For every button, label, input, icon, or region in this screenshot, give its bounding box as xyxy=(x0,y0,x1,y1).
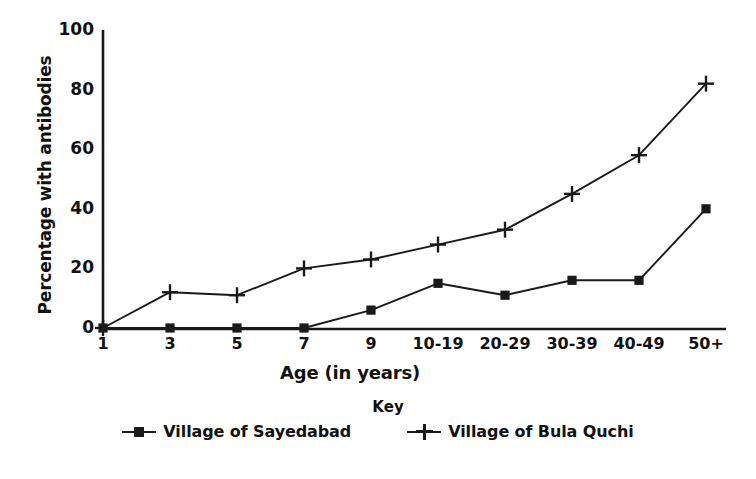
chart-legend: Key Village of SayedabadVillage of Bula … xyxy=(0,398,756,458)
x-axis-title: Age (in years) xyxy=(0,362,700,383)
data-point-marker xyxy=(564,186,580,202)
data-point-marker xyxy=(497,222,513,238)
data-point-marker xyxy=(430,237,446,253)
x-tick-label: 10-19 xyxy=(412,336,463,352)
plus-marker-icon xyxy=(407,423,441,441)
legend-label: Village of Bula Quchi xyxy=(448,422,633,441)
x-axis-tick-labels: 1357910-1920-2930-3940-4950+ xyxy=(0,336,756,360)
legend-entry: Village of Sayedabad xyxy=(122,422,351,441)
data-point-marker xyxy=(162,284,178,300)
series-1 xyxy=(98,204,710,332)
antibody-prevalence-line-chart: Percentage with antibodies 020406080100 … xyxy=(0,0,756,479)
data-point-marker xyxy=(701,204,710,213)
legend-entry: Village of Bula Quchi xyxy=(407,422,633,441)
series-line xyxy=(103,84,706,328)
x-tick-label: 30-39 xyxy=(546,336,597,352)
data-point-marker xyxy=(634,276,643,285)
legend-title: Key xyxy=(0,398,756,416)
data-point-marker xyxy=(567,276,576,285)
data-point-marker xyxy=(433,279,442,288)
x-tick-label: 50+ xyxy=(688,336,724,352)
x-tick-label: 3 xyxy=(164,336,175,352)
data-point-marker xyxy=(232,323,241,332)
x-tick-label: 20-29 xyxy=(479,336,530,352)
data-point-marker xyxy=(299,323,308,332)
data-point-marker xyxy=(500,291,509,300)
x-tick-label: 5 xyxy=(231,336,242,352)
data-point-marker xyxy=(165,323,174,332)
square-marker-icon xyxy=(122,423,156,441)
x-tick-label: 1 xyxy=(97,336,108,352)
legend-entries: Village of SayedabadVillage of Bula Quch… xyxy=(0,422,756,441)
legend-label: Village of Sayedabad xyxy=(163,422,351,441)
x-tick-label: 9 xyxy=(365,336,376,352)
series-line xyxy=(103,209,706,328)
x-tick-label: 40-49 xyxy=(613,336,664,352)
data-point-marker xyxy=(296,260,312,276)
x-tick-label: 7 xyxy=(298,336,309,352)
data-point-marker xyxy=(366,306,375,315)
data-point-marker xyxy=(229,287,245,303)
data-point-marker xyxy=(363,251,379,267)
